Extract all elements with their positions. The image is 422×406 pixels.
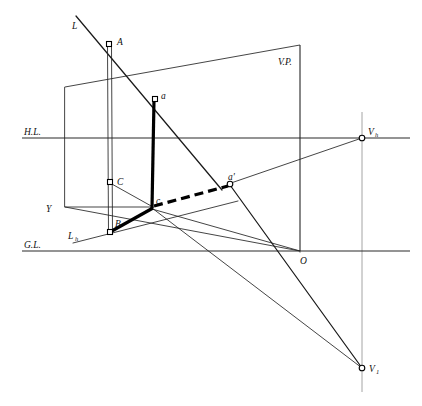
line-Lh-label: L: [67, 231, 73, 241]
ab-rail-left: [108, 44, 109, 233]
label-a: a: [161, 91, 166, 101]
label-A: A: [116, 37, 123, 47]
ray-a-prime-to-V1: [230, 185, 362, 368]
segment-a-to-c-vertical: [152, 100, 154, 208]
node-markers: [107, 42, 365, 371]
ab-rail-right: [112, 44, 113, 233]
line-Lh-label-sub: h: [75, 235, 78, 242]
segment-a-prime-to-Vh: [231, 138, 362, 183]
node-a: [153, 97, 158, 102]
node-Vh: [359, 135, 365, 141]
label-V1: V: [369, 364, 376, 374]
label-O: O: [300, 256, 307, 266]
line-L-label: L: [71, 21, 77, 31]
thick-dashed-member: [154, 186, 228, 206]
figure-canvas: H.L. G.L. V.P. L L h: [0, 0, 422, 406]
point-labels: A a C B c a' Y O V h V 1: [46, 37, 379, 375]
thick-members: [110, 100, 154, 232]
label-C: C: [117, 177, 124, 187]
node-B: [108, 230, 113, 235]
label-Vh-sub: h: [375, 131, 378, 138]
perspective-figure: H.L. G.L. V.P. L L h: [0, 0, 422, 406]
ground-line-group: G.L.: [22, 240, 410, 251]
label-a-prime: a': [228, 172, 236, 182]
label-Vh: V: [368, 127, 375, 137]
picture-plane-quad: V.P.: [65, 45, 300, 251]
vertical-plane-label: V.P.: [278, 57, 292, 67]
node-a-prime: [227, 181, 233, 187]
node-V1: [359, 365, 365, 371]
line-L: [76, 16, 222, 190]
horizon-line-label: H.L.: [23, 127, 41, 137]
label-B: B: [115, 219, 121, 229]
segment-c-to-O: [152, 209, 300, 251]
node-C: [108, 180, 113, 185]
horizon-line-group: H.L.: [22, 127, 410, 138]
picture-plane-outline: [65, 45, 300, 251]
segment-c-to-V1: [152, 208, 362, 368]
thin-connectors: [65, 138, 362, 368]
node-A: [107, 42, 112, 47]
label-Y: Y: [46, 204, 53, 214]
line-L-group: L: [71, 16, 222, 190]
label-V1-sub: 1: [376, 368, 379, 375]
guide-rails: [300, 45, 362, 392]
ground-line-label: G.L.: [24, 240, 41, 250]
segment-a-prime-to-V1: [230, 185, 362, 368]
segment-c-to-a-prime: [154, 186, 228, 206]
